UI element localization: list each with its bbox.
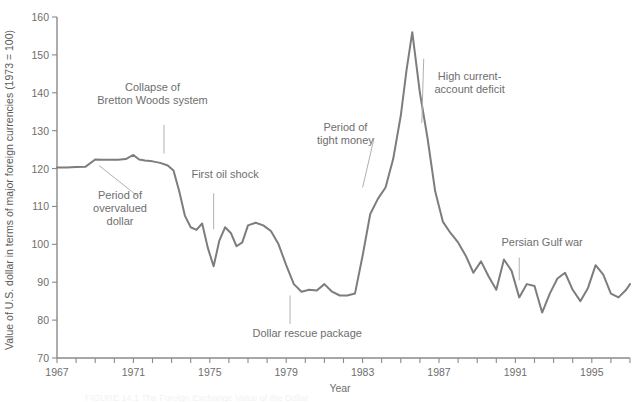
figure-container: 7080901001101201301401501601967197119751…	[0, 0, 637, 402]
y-tick-label: 120	[31, 163, 49, 175]
annotations: Collapse ofBretton Woods systemPeriod of…	[93, 59, 583, 339]
collapse-bretton-woods-label: Collapse ofBretton Woods system	[97, 81, 207, 106]
dollar-rescue-package-label: Dollar rescue package	[252, 327, 361, 339]
y-tick-label: 70	[37, 352, 49, 364]
y-tick-label: 130	[31, 125, 49, 137]
x-tick-label: 1987	[427, 366, 451, 378]
x-tick-label: 1983	[351, 366, 375, 378]
x-tick-label: 1991	[504, 366, 528, 378]
exchange-rate-line-chart: 7080901001101201301401501601967197119751…	[0, 0, 637, 402]
data-series	[57, 32, 630, 312]
x-tick-label: 1995	[580, 366, 604, 378]
y-tick-label: 160	[31, 11, 49, 23]
series-line	[57, 32, 630, 312]
period-overvalued-dollar-label: Period ofovervalueddollar	[93, 189, 147, 227]
period-tight-money-label: Period oftight money	[317, 121, 374, 146]
x-tick-label: 1979	[275, 366, 299, 378]
x-tick-label: 1975	[198, 366, 222, 378]
x-tick-label: 1967	[45, 366, 69, 378]
y-tick-label: 100	[31, 238, 49, 250]
x-axis-title: Year	[329, 382, 351, 394]
figure-caption: FIGURE 14.1 The Foreign Exchange Value o…	[85, 393, 308, 402]
y-axis-title: Value of U.S. dollar in terms of major f…	[3, 30, 15, 350]
y-tick-label: 140	[31, 87, 49, 99]
high-current-account-deficit-label: High current-account deficit	[434, 70, 504, 95]
persian-gulf-war-label: Persian Gulf war	[501, 236, 583, 248]
first-oil-shock-label: First oil shock	[191, 168, 259, 180]
y-tick-label: 150	[31, 49, 49, 61]
x-tick-label: 1971	[122, 366, 146, 378]
y-tick-label: 110	[32, 200, 49, 212]
y-tick-label: 80	[37, 314, 49, 326]
y-tick-label: 90	[37, 276, 49, 288]
